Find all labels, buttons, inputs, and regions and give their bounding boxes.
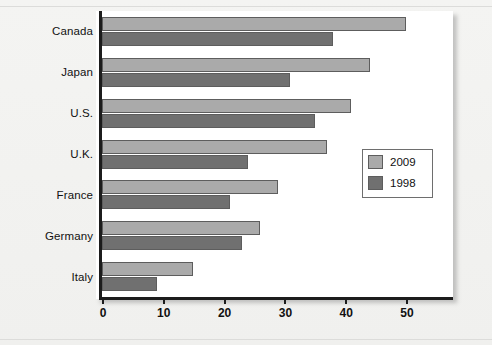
- page-rule-top: [0, 6, 492, 7]
- legend-swatch-2009: [368, 155, 383, 169]
- bar-group: U.S.: [102, 99, 452, 128]
- x-axis-tick-label: 0: [100, 306, 107, 320]
- bar-group: Canada: [102, 17, 452, 46]
- x-axis-tick-label: 50: [400, 306, 413, 320]
- category-label: Germany: [45, 230, 93, 242]
- x-axis-tick: [406, 297, 408, 304]
- legend-item-2009: 2009: [368, 155, 416, 169]
- x-axis-tick: [102, 297, 104, 304]
- bar-1998: [102, 277, 157, 291]
- bar-group: Germany: [102, 221, 452, 250]
- bar-1998: [102, 114, 315, 128]
- x-axis-tick-label: 10: [157, 306, 170, 320]
- bar-1998: [102, 73, 290, 87]
- bar-2009: [102, 58, 370, 72]
- bar-group: Japan: [102, 58, 452, 87]
- x-axis-tick: [163, 297, 165, 304]
- bar-1998: [102, 155, 248, 169]
- category-label: U.K.: [70, 148, 93, 160]
- x-axis-tick-label: 20: [218, 306, 231, 320]
- bar-chart-figure: CanadaJapanU.S.U.K.FranceGermanyItaly 01…: [30, 9, 455, 301]
- category-label: Italy: [71, 271, 93, 283]
- legend-item-1998: 1998: [368, 176, 416, 190]
- x-axis-tick-label: 40: [340, 306, 353, 320]
- x-axis-tick-label: 30: [279, 306, 292, 320]
- page-rule-bottom: [0, 339, 492, 340]
- category-label: Japan: [61, 66, 93, 78]
- x-axis-tick: [284, 297, 286, 304]
- bar-1998: [102, 32, 333, 46]
- legend-label-2009: 2009: [390, 156, 416, 168]
- legend-swatch-1998: [368, 176, 383, 190]
- bar-2009: [102, 140, 327, 154]
- x-axis-line: [99, 297, 453, 300]
- x-axis-tick: [224, 297, 226, 304]
- category-label: France: [57, 189, 93, 201]
- bar-1998: [102, 195, 230, 209]
- bar-group: Italy: [102, 262, 452, 291]
- category-label: Canada: [52, 25, 93, 37]
- bar-2009: [102, 262, 193, 276]
- bar-2009: [102, 17, 406, 31]
- chart-legend: 2009 1998: [362, 149, 433, 198]
- bar-2009: [102, 180, 278, 194]
- bar-2009: [102, 99, 351, 113]
- bar-1998: [102, 236, 242, 250]
- category-label: U.S.: [70, 107, 93, 119]
- legend-label-1998: 1998: [390, 177, 416, 189]
- x-axis-tick: [345, 297, 347, 304]
- bar-2009: [102, 221, 260, 235]
